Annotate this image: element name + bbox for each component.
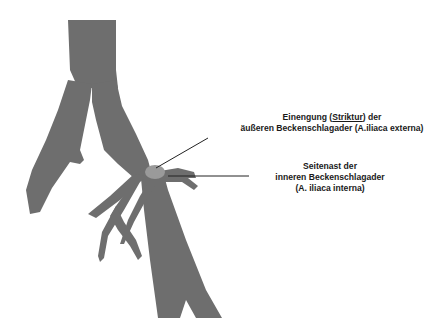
stricture-label-line1: Einengung (Striktur) der bbox=[232, 112, 431, 123]
stricture-pointer-line bbox=[156, 138, 208, 168]
stricture-term: Striktur bbox=[332, 112, 363, 122]
left-limb bbox=[26, 80, 92, 214]
side-branch-label: Seitenast der inneren Beckenschlagader (… bbox=[255, 161, 405, 194]
stricture-label-line2: äußeren Beckenschlagader (A.iliaca exter… bbox=[232, 123, 431, 134]
stricture-label: Einengung (Striktur) der äußeren Beckens… bbox=[232, 112, 431, 134]
external-iliac bbox=[140, 168, 222, 318]
stricture-region bbox=[145, 165, 165, 179]
main-trunk bbox=[68, 20, 118, 88]
side-branch-label-line3: (A. iliaca interna) bbox=[255, 183, 405, 194]
side-branch-label-line2: inneren Beckenschlagader bbox=[255, 172, 405, 183]
right-limb bbox=[92, 80, 152, 178]
side-branch-label-line1: Seitenast der bbox=[255, 161, 405, 172]
vessel-tree bbox=[26, 20, 222, 318]
